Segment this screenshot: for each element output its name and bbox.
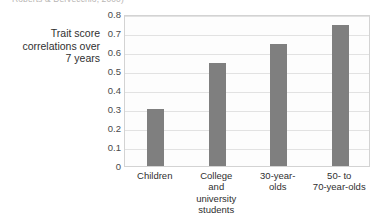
bars-layer [125, 16, 369, 166]
x-axis-category-labels: ChildrenCollege and university students3… [124, 170, 370, 223]
citation-strip: Roberts & DelVecchio, 2000) [0, 0, 375, 9]
x-axis-category-label: 50- to 70-year-olds [309, 170, 371, 193]
y-axis-tick-label: 0.3 [108, 105, 121, 115]
bar [332, 25, 349, 166]
x-axis-category-label: 30-year- olds [247, 170, 309, 193]
y-axis-tick-labels: 0.80.70.60.50.40.30.20.10 [100, 15, 121, 167]
bar [147, 109, 164, 166]
y-axis-tick-label: 0.5 [108, 67, 121, 77]
bar [270, 44, 287, 166]
y-axis-tick-label: 0 [116, 162, 121, 172]
y-axis-title: Trait score correlations over 7 years [4, 27, 100, 65]
bar [209, 63, 226, 166]
y-axis-tick-label: 0.7 [108, 29, 121, 39]
y-axis-tick-label: 0.6 [108, 48, 121, 58]
citation-text: Roberts & DelVecchio, 2000) [12, 0, 124, 4]
chart-plot-area [124, 15, 370, 167]
y-axis-tick-label: 0.8 [108, 10, 121, 20]
y-axis-tick-label: 0.1 [108, 143, 121, 153]
y-axis-tick-label: 0.4 [108, 86, 121, 96]
y-axis-tick-label: 0.2 [108, 124, 121, 134]
x-axis-category-label: Children [124, 170, 186, 181]
x-axis-category-label: College and university students [186, 170, 248, 216]
